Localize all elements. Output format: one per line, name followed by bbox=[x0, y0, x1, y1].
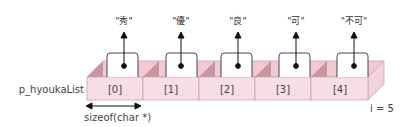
arrow-up-icon bbox=[121, 32, 127, 38]
sizeof-label: sizeof(char *) bbox=[84, 112, 151, 123]
string-label-0: "秀" bbox=[115, 15, 132, 26]
arrow-up-icon bbox=[178, 32, 184, 38]
index-label-1: [1] bbox=[164, 84, 178, 95]
index-label-2: [2] bbox=[220, 84, 234, 95]
count-label: i = 5 bbox=[370, 103, 394, 114]
string-label-2: "良" bbox=[229, 15, 246, 26]
arrow-up-icon bbox=[293, 32, 299, 38]
index-label-4: [4] bbox=[333, 84, 347, 95]
pointer-dot-icon bbox=[294, 64, 299, 69]
pointer-dot-icon bbox=[179, 64, 184, 69]
string-label-4: "不可" bbox=[341, 16, 367, 26]
pointer-dot-icon bbox=[122, 64, 127, 69]
pointer-dot-icon bbox=[236, 64, 241, 69]
string-label-3: "可" bbox=[287, 16, 304, 26]
pointer-array-diagram: "秀" "優" "良" "可" "不可" [0] [1] [2] [3] [4]… bbox=[0, 0, 415, 127]
arrow-up-icon bbox=[235, 32, 241, 38]
string-label-1: "優" bbox=[172, 15, 189, 26]
variable-name-label: p_hyoukaList bbox=[19, 84, 84, 96]
index-label-0: [0] bbox=[108, 84, 122, 95]
pointer-dot-icon bbox=[352, 64, 357, 69]
arrow-up-icon bbox=[351, 32, 357, 38]
double-arrow-icon bbox=[86, 103, 141, 109]
index-label-3: [3] bbox=[276, 84, 290, 95]
